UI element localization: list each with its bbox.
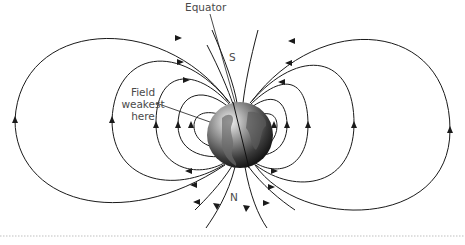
field-weakest-line3: here: [118, 110, 168, 122]
arrow-icon: [188, 121, 194, 128]
arrow-icon: [447, 126, 453, 133]
field-weakest-line1: Field: [118, 86, 168, 98]
arrow-icon: [288, 38, 295, 44]
arrow-icon: [243, 205, 250, 212]
arrow-icon: [263, 200, 270, 206]
arrow-icon: [284, 121, 290, 128]
field-weakest-label: Field weakest here: [118, 86, 168, 122]
north-pole-label: N: [230, 191, 238, 203]
arrow-icon: [153, 121, 159, 128]
arrow-icon: [12, 116, 18, 123]
field-weakest-line2: weakest: [118, 98, 168, 110]
magnetic-field-diagram: Equator S N Field weakest here: [0, 0, 465, 245]
equator-label: Equator: [185, 1, 226, 13]
arrow-icon: [175, 35, 182, 41]
arrow-icon: [109, 116, 115, 123]
arrow-icon: [305, 121, 311, 128]
south-pole-label: S: [229, 51, 236, 63]
field-line-top-2: [243, 30, 258, 103]
arrow-icon: [193, 199, 200, 205]
arrow-icon: [351, 121, 357, 128]
arrow-icon: [175, 121, 181, 128]
arrow-icon: [183, 77, 190, 83]
field-line-right-outer: [252, 39, 450, 210]
earth-globe: [207, 102, 273, 168]
field-lines-canvas: [0, 0, 465, 245]
